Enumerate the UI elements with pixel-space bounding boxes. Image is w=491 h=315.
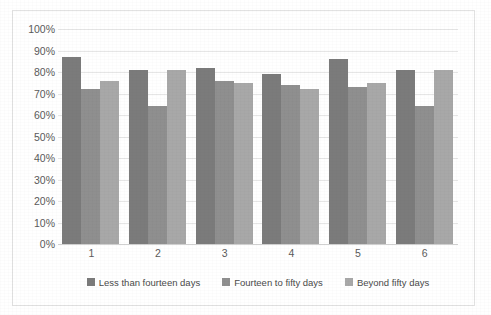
y-axis-tick-label: 10%	[15, 217, 55, 229]
chart-container: 100%90%80%70%60%50%40%30%20%10%0% 123456…	[12, 10, 475, 306]
bar[interactable]	[81, 89, 100, 244]
y-axis: 100%90%80%70%60%50%40%30%20%10%0%	[13, 29, 55, 244]
x-axis-tick-label: 5	[329, 247, 387, 265]
x-axis-tick-label: 6	[396, 247, 454, 265]
bar-groups	[58, 29, 458, 244]
y-axis-tick-label: 90%	[15, 45, 55, 57]
bar[interactable]	[215, 81, 234, 244]
legend-item[interactable]: Less than fourteen days	[87, 277, 200, 288]
bar[interactable]	[348, 87, 367, 244]
legend-label: Beyond fifty days	[357, 277, 429, 288]
x-axis: 123456	[58, 247, 458, 265]
x-axis-tick-label: 1	[62, 247, 120, 265]
bar-group	[262, 29, 320, 244]
bar[interactable]	[100, 81, 119, 244]
legend-label: Less than fourteen days	[99, 277, 200, 288]
bar-group	[196, 29, 254, 244]
y-axis-tick-label: 0%	[15, 238, 55, 250]
bar[interactable]	[167, 70, 186, 244]
plot-area	[58, 29, 458, 244]
gridline	[58, 244, 458, 245]
bar[interactable]	[62, 57, 81, 244]
y-axis-tick-label: 40%	[15, 152, 55, 164]
bar[interactable]	[329, 59, 348, 244]
y-axis-tick-label: 20%	[15, 195, 55, 207]
bar[interactable]	[281, 85, 300, 244]
x-axis-tick-label: 3	[196, 247, 254, 265]
bar[interactable]	[234, 83, 253, 244]
bar[interactable]	[148, 106, 167, 244]
bar[interactable]	[262, 74, 281, 244]
bar-group	[329, 29, 387, 244]
bar-group	[62, 29, 120, 244]
y-axis-tick-label: 70%	[15, 88, 55, 100]
bar[interactable]	[415, 106, 434, 244]
y-axis-tick-label: 80%	[15, 66, 55, 78]
chart-legend: Less than fourteen daysFourteen to fifty…	[58, 273, 458, 291]
bar[interactable]	[434, 70, 453, 244]
legend-swatch-icon	[87, 278, 95, 286]
bar[interactable]	[129, 70, 148, 244]
y-axis-tick-label: 50%	[15, 131, 55, 143]
legend-swatch-icon	[222, 278, 230, 286]
y-axis-tick-label: 60%	[15, 109, 55, 121]
y-axis-tick-label: 30%	[15, 174, 55, 186]
bar[interactable]	[196, 68, 215, 244]
legend-item[interactable]: Beyond fifty days	[345, 277, 429, 288]
x-axis-tick-label: 2	[129, 247, 187, 265]
bar-group	[129, 29, 187, 244]
bar-group	[396, 29, 454, 244]
legend-swatch-icon	[345, 278, 353, 286]
y-axis-tick-label: 100%	[15, 23, 55, 35]
x-axis-tick-label: 4	[262, 247, 320, 265]
legend-label: Fourteen to fifty days	[234, 277, 323, 288]
bar[interactable]	[300, 89, 319, 244]
bar[interactable]	[396, 70, 415, 244]
legend-item[interactable]: Fourteen to fifty days	[222, 277, 323, 288]
bar[interactable]	[367, 83, 386, 244]
